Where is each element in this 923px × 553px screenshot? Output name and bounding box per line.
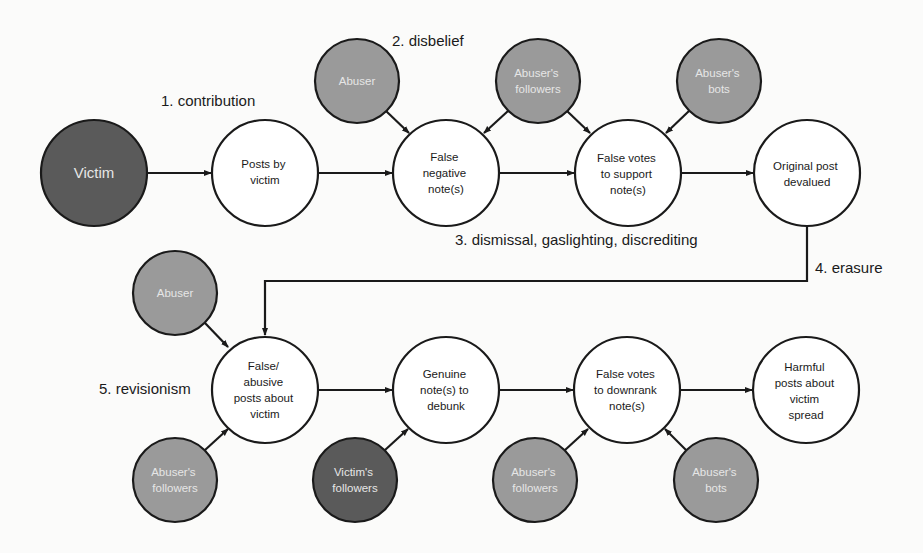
node-abusers-followers-left: Abuser's followers [133, 438, 217, 522]
node-false-abusive-posts: False/ abusive posts about victim [212, 337, 318, 443]
edge-abuser-to-false-posts [205, 323, 228, 347]
svg-text:Genuine note(s) to: Genuine note(s) to debunk [420, 368, 472, 412]
node-text: note(s) to [420, 384, 469, 396]
node-text: False/ [248, 360, 280, 372]
step-label-dismissal: 3. dismissal, gaslighting, discrediting [455, 231, 698, 248]
node-text: note(s) [610, 184, 646, 196]
node-abusers-followers-top: Abuser's followers [496, 39, 580, 123]
node-text: bots [705, 482, 727, 494]
node-abusers-bots-bottom: Abuser's bots [674, 438, 758, 522]
node-text: note(s) [428, 183, 464, 195]
node-text: False [430, 151, 458, 163]
edge-followers-to-downrank-votes [565, 429, 588, 450]
node-text: Abuser's [511, 466, 556, 478]
node-text: Abuser's [692, 466, 737, 478]
node-text: victim [250, 174, 279, 186]
node-text: Abuser's [695, 67, 740, 79]
node-text: Genuine [423, 368, 466, 380]
svg-text:Abuser: Abuser [157, 287, 194, 299]
step-label-revisionism: 5. revisionism [99, 380, 191, 397]
node-victim: Victim [41, 120, 147, 226]
node-text: Victim's [334, 466, 373, 478]
node-false-votes-downrank: False votes to downrank note(s) [574, 337, 680, 443]
node-text: to downrank [594, 384, 657, 396]
node-text: False votes [596, 368, 655, 380]
node-text: Posts by [241, 158, 285, 170]
edge-followers-to-negative-notes [484, 111, 508, 133]
node-text: posts about [775, 377, 835, 389]
step-label-disbelief: 2. disbelief [392, 32, 465, 49]
node-text: False votes [597, 152, 656, 164]
node-text: Original post [773, 160, 838, 172]
edge-followers-to-support-votes [567, 111, 590, 133]
node-text: Abuser [339, 75, 376, 87]
node-text: devalued [784, 176, 831, 188]
node-posts-by-victim: Posts by victim [212, 120, 318, 226]
node-false-negative-notes: False negative note(s) [393, 120, 499, 226]
node-text: victim [790, 393, 819, 405]
node-text: abusive [244, 376, 284, 388]
node-text: victim [250, 408, 279, 420]
node-text: negative [423, 167, 466, 179]
node-text: Abuser's [514, 67, 559, 79]
svg-text:Victim: Victim [74, 164, 115, 181]
edge-victims-followers-to-genuine-notes [385, 429, 408, 450]
node-harmful-posts-spread: Harmful posts about victim spread [753, 337, 859, 443]
abuse-flow-diagram: Victim Posts by victim Abuser False nega… [0, 0, 923, 553]
node-text: note(s) [609, 400, 645, 412]
node-false-votes-support: False votes to support note(s) [575, 120, 681, 226]
node-original-post-devalued: Original post devalued [754, 120, 860, 226]
node-abuser-top: Abuser [315, 39, 399, 123]
node-text: to support [601, 168, 653, 180]
node-victims-followers: Victim's followers [313, 438, 397, 522]
node-text: followers [515, 83, 561, 95]
node-text: debunk [427, 400, 465, 412]
node-text: followers [152, 482, 198, 494]
node-text: bots [708, 83, 730, 95]
node-abusers-bots-top: Abuser's bots [677, 39, 761, 123]
node-text: Victim [74, 164, 115, 181]
node-genuine-notes: Genuine note(s) to debunk [393, 337, 499, 443]
edge-bots-to-support-votes [666, 111, 689, 133]
edge-followers-to-false-posts [205, 429, 228, 450]
node-text: Harmful [784, 361, 824, 373]
node-text: Abuser [157, 287, 194, 299]
step-label-contribution: 1. contribution [161, 92, 255, 109]
node-text: spread [788, 409, 823, 421]
node-text: posts about [234, 392, 294, 404]
node-abuser-bottom: Abuser [133, 251, 217, 335]
edge-abuser-to-negative-notes [386, 111, 409, 133]
node-text: Abuser's [151, 466, 196, 478]
step-label-erasure: 4. erasure [815, 259, 883, 276]
node-text: followers [512, 482, 558, 494]
svg-text:Abuser: Abuser [339, 75, 376, 87]
node-text: followers [332, 482, 378, 494]
edge-bots-to-downrank-votes [665, 429, 686, 450]
node-abusers-followers-bottom: Abuser's followers [493, 438, 577, 522]
